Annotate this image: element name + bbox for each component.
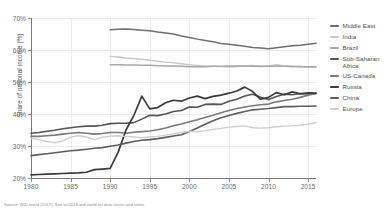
legend-item-label: Russia xyxy=(343,83,362,90)
legend-color-swatch xyxy=(330,97,339,99)
legend-color-swatch xyxy=(330,36,339,38)
legend-item[interactable]: China xyxy=(330,94,392,102)
legend-item-label: Brazil xyxy=(343,44,359,51)
legend-item[interactable]: US-Canada xyxy=(330,72,392,80)
legend-item[interactable]: Europe xyxy=(330,105,392,113)
legend-color-swatch xyxy=(330,108,339,110)
legend-item-label: Sub-Saharan Africa xyxy=(343,55,392,69)
legend-color-swatch xyxy=(330,47,339,49)
legend: Middle EastIndiaBrazilSub-Saharan Africa… xyxy=(330,22,392,116)
legend-item[interactable]: Sub-Saharan Africa xyxy=(330,55,392,69)
source-note: Source: WID.world (2017). See wir2018.wi… xyxy=(4,202,145,207)
legend-item-label: India xyxy=(343,33,357,40)
legend-item-label: US-Canada xyxy=(343,72,376,79)
legend-color-swatch xyxy=(330,75,339,77)
legend-color-swatch xyxy=(330,86,339,88)
series-line xyxy=(110,65,316,67)
legend-item[interactable]: Middle East xyxy=(330,22,392,30)
legend-color-swatch xyxy=(330,58,339,60)
legend-item-label: China xyxy=(343,94,359,101)
income-share-line-chart: Share of national income (%) 20%30%40%50… xyxy=(0,0,392,213)
series-line xyxy=(31,106,316,156)
legend-color-swatch xyxy=(330,25,339,27)
legend-item[interactable]: Russia xyxy=(330,83,392,91)
series-line xyxy=(110,29,316,49)
legend-item-label: Europe xyxy=(343,105,363,112)
series-line xyxy=(31,87,316,175)
legend-item-label: Middle East xyxy=(343,22,376,29)
legend-item[interactable]: Brazil xyxy=(330,44,392,52)
legend-item[interactable]: India xyxy=(330,33,392,41)
